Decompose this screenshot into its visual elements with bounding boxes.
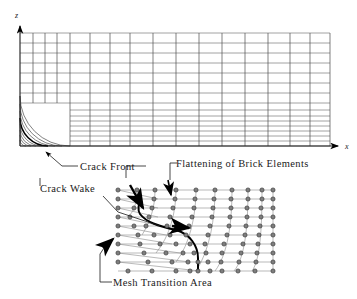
top-mesh-group: z x xyxy=(14,11,349,151)
crack-tip-arc-family xyxy=(20,96,70,146)
mesh-transition-arrow xyxy=(103,239,113,248)
crack-wake-label: Crack Wake xyxy=(40,183,95,194)
top-mesh-horizontal-lines xyxy=(20,33,330,146)
figure-container: z x Crack Front Crack Wake Flattening of… xyxy=(0,0,357,299)
mesh-transition-label: Mesh Transition Area xyxy=(113,277,212,288)
x-axis-label: x xyxy=(344,142,349,151)
crack-front-label: Crack Front xyxy=(80,161,135,172)
mesh-transition-leader xyxy=(100,248,104,282)
mesh-transition-leader-group xyxy=(100,248,112,282)
z-axis-label: z xyxy=(14,11,19,20)
crack-front-leader xyxy=(46,152,78,166)
flattening-label: Flattening of Brick Elements xyxy=(176,158,309,169)
detail-mesh-column-curves xyxy=(128,190,273,271)
top-mesh-vertical-lines xyxy=(33,33,330,146)
detail-mesh-collapsed-wedge-lines xyxy=(118,190,200,271)
flattening-arrow-1 xyxy=(168,180,171,195)
mesh-diagram-svg: z x Crack Front Crack Wake Flattening of… xyxy=(0,0,357,299)
